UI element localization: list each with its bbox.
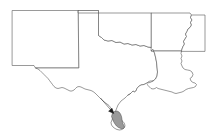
state-outline-new-mexico: [13, 11, 79, 69]
state-outlines-group: [13, 11, 206, 131]
map-figure: [0, 0, 212, 138]
map-svg: [0, 0, 212, 138]
